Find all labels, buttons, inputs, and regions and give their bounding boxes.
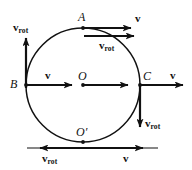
vrot-subscript: rot — [105, 44, 115, 53]
point-label-O-prime: O′ — [76, 126, 87, 138]
vector-label-v-at-A: v — [135, 13, 141, 24]
point-label-O: O — [78, 70, 87, 82]
vector-label-v-at-C-base: v — [170, 69, 176, 81]
vector-label-v-at-C: v — [170, 70, 176, 81]
vector-label-v-at-B-base: v — [45, 69, 51, 81]
vector-label-vrot-at-A: vrot — [99, 40, 114, 51]
vrot-base: v — [145, 117, 151, 129]
vrot-base: v — [99, 39, 105, 51]
figure-canvas — [0, 0, 192, 170]
point-label-A: A — [78, 11, 85, 23]
point-label-C: C — [143, 70, 151, 82]
vector-label-vrot-at-O-prime: vrot — [42, 153, 57, 164]
vector-label-v-at-B: v — [45, 70, 51, 81]
vector-label-vrot-at-B: vrot — [13, 22, 28, 33]
vector-label-v-at-O-prime: v — [123, 153, 129, 164]
vector-label-v-at-A-base: v — [135, 12, 141, 24]
vrot-subscript: rot — [48, 157, 58, 166]
vrot-base: v — [42, 152, 48, 164]
point-dot-O-prime — [81, 140, 85, 144]
vector-label-v-at-O-prime-base: v — [123, 152, 129, 164]
vrot-subscript: rot — [151, 122, 161, 131]
point-label-B: B — [10, 78, 17, 90]
physics-figure-rolling-circle: A B C O O′ v vrot vrot v v vrot vrot v — [0, 0, 192, 170]
vrot-subscript: rot — [19, 26, 29, 35]
vrot-base: v — [13, 21, 19, 33]
vector-label-vrot-at-C: vrot — [145, 118, 160, 129]
